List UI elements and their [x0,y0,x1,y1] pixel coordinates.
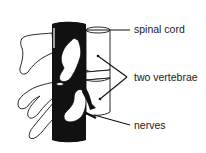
spine-diagram: spinal cord two vertebrae nerves [0,0,206,153]
spinal-cord-shape [52,22,86,143]
spinal-cord-label: spinal cord [134,24,185,35]
vertebrae-label: two vertebrae [134,72,198,83]
nerves-label: nerves [134,120,166,131]
